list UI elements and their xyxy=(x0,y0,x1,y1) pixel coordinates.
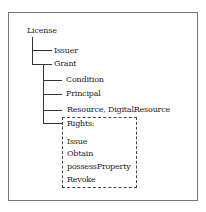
connector-grant xyxy=(32,64,52,65)
node-condition: Condition xyxy=(66,75,104,84)
connector-principal xyxy=(43,94,62,95)
right-possess-property: possessProperty xyxy=(67,162,131,171)
right-issue: Issue xyxy=(67,137,87,146)
node-principal: Principal xyxy=(66,89,101,98)
connector-resource xyxy=(43,110,62,111)
connector-rights xyxy=(43,123,62,124)
node-license: License xyxy=(27,26,57,35)
node-issuer: Issuer xyxy=(54,46,78,55)
connector-issuer xyxy=(32,50,52,51)
node-rights: Rights: xyxy=(67,119,94,128)
node-grant: Grant xyxy=(54,59,76,68)
connector-condition xyxy=(43,80,62,81)
right-revoke: Revoke xyxy=(67,175,95,184)
right-obtain: Obtain xyxy=(67,149,93,158)
node-resource: Resource, DigitalResource xyxy=(67,105,170,114)
